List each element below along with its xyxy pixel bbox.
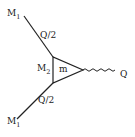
internal-mass-label: M2 xyxy=(37,63,50,76)
boson-label: Q xyxy=(120,69,127,79)
loop-mass-label: m xyxy=(59,64,68,74)
bottom-momentum-label: Q/2 xyxy=(38,95,54,105)
triangle-loop xyxy=(53,57,83,83)
wavy-boson-line xyxy=(83,69,115,72)
top-particle-label: M1 xyxy=(7,8,20,21)
top-momentum-label: Q/2 xyxy=(40,30,56,40)
triangle-diagram: M1 Q/2 M2 m Q Q/2 M1 xyxy=(0,0,135,137)
